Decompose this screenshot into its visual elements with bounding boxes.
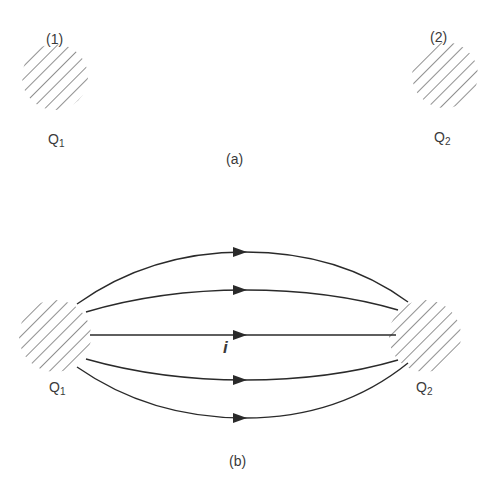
charge-1-index-label: (1) — [46, 32, 63, 46]
charge-1-hatched-disk — [20, 42, 92, 114]
current-flow-lines — [77, 252, 408, 418]
charge-q2-label: Q2 — [416, 380, 432, 397]
charge-q2-hatched-region — [387, 298, 467, 378]
charge-q1-hatched-region — [17, 298, 97, 378]
flow-line-4 — [86, 359, 245, 380]
current-label: i — [223, 339, 228, 356]
charge-1-name-label: Q1 — [48, 132, 64, 149]
charge-q1-label: Q1 — [49, 380, 65, 397]
flow-line-2 — [86, 290, 245, 312]
diagram-canvas — [0, 0, 490, 495]
charge-2-index-label: (2) — [430, 30, 447, 44]
panel-b-caption: (b) — [229, 454, 246, 468]
charge-2-name-label: Q2 — [434, 130, 450, 147]
panel-a-caption: (a) — [226, 152, 243, 166]
charge-2-hatched-disk — [410, 40, 482, 112]
